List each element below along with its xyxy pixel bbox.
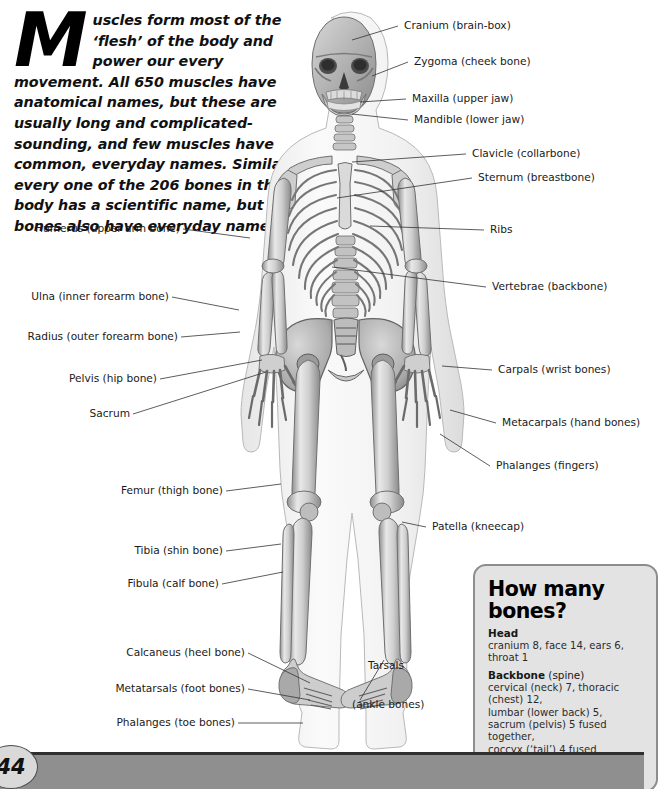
label-metatarsals: Metatarsals (foot bones) xyxy=(8,682,245,695)
footer-bar xyxy=(0,752,644,789)
label-zygoma: Zygoma (cheek bone) xyxy=(414,55,531,68)
label-phalanges-toes: Phalanges (toe bones) xyxy=(8,716,235,729)
label-sacrum: Sacrum xyxy=(8,407,130,420)
label-sternum: Sternum (breastbone) xyxy=(478,171,595,184)
infobox-subheading: (spine) xyxy=(545,669,584,681)
label-tarsals-line1: Tarsals xyxy=(352,659,420,672)
label-fibula: Fibula (calf bone) xyxy=(8,577,219,590)
label-pelvis: Pelvis (hip bone) xyxy=(8,372,157,385)
label-ulna: Ulna (inner forearm bone) xyxy=(8,290,169,303)
drop-cap: M xyxy=(14,12,88,69)
label-clavicle: Clavicle (collarbone) xyxy=(472,147,580,160)
infobox-heading: Head xyxy=(488,627,518,639)
label-maxilla: Maxilla (upper jaw) xyxy=(412,92,513,105)
infobox-section-head-backbone: Backbone (spine) xyxy=(488,669,643,682)
label-vertebrae: Vertebrae (backbone) xyxy=(492,280,607,293)
label-phalanges-fingers: Phalanges (fingers) xyxy=(496,459,599,472)
label-humerus: Humerus (upper arm bone) xyxy=(8,222,180,235)
label-patella: Patella (kneecap) xyxy=(432,520,524,533)
label-tibia: Tibia (shin bone) xyxy=(8,544,223,557)
label-carpals: Carpals (wrist bones) xyxy=(498,363,611,376)
label-tarsals: Tarsals (ankle bones) xyxy=(352,633,420,737)
infobox-title: How many bones? xyxy=(488,578,643,622)
label-tarsals-line2: (ankle bones) xyxy=(352,698,420,711)
infobox-section-body-head: cranium 8, face 14, ears 6, throat 1 xyxy=(488,640,643,665)
label-cranium: Cranium (brain-box) xyxy=(404,19,511,32)
label-radius: Radius (outer forearm bone) xyxy=(8,330,178,343)
label-mandible: Mandible (lower jaw) xyxy=(414,113,524,126)
page-canvas: Muscles form most of the ‘flesh’ of the … xyxy=(0,0,658,789)
infobox-section-head-head: Head xyxy=(488,627,643,640)
label-femur: Femur (thigh bone) xyxy=(8,484,223,497)
label-calcaneus: Calcaneus (heel bone) xyxy=(8,646,245,659)
infobox-heading: Backbone xyxy=(488,669,545,681)
label-ribs: Ribs xyxy=(490,223,513,236)
label-metacarpals: Metacarpals (hand bones) xyxy=(502,416,640,429)
